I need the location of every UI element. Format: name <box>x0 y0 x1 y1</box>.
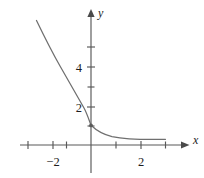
x-axis-label: x <box>192 133 199 147</box>
graph-figure: −2 2 2 4 x y <box>0 0 204 178</box>
x-tick-label-neg2: −2 <box>46 155 59 169</box>
plot-area: −2 2 2 4 x y <box>0 0 204 178</box>
y-intercept-point <box>89 124 93 128</box>
exponential-decay-curve <box>37 21 166 140</box>
y-tick-label-2: 2 <box>76 101 82 115</box>
y-axis-label: y <box>97 6 104 20</box>
y-tick-label-4: 4 <box>76 61 83 75</box>
y-axis-arrow-icon <box>87 9 94 17</box>
x-tick-label-pos2: 2 <box>138 155 144 169</box>
x-axis-arrow-icon <box>181 141 190 148</box>
